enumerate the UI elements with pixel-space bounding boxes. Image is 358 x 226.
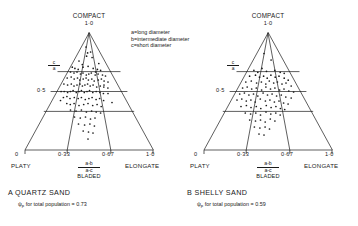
scatter-points-a	[60, 46, 113, 140]
apex-value-a: 1·0	[69, 21, 109, 27]
base-tick-0-b: 0	[194, 152, 197, 158]
panel-subcaption-a: ψp for total population = 0.73	[18, 201, 87, 208]
psi-text-a: for total population = 0.73	[24, 201, 87, 207]
corner-label-platy-a: PLATY	[11, 163, 31, 169]
legend-item-c: c=short diameter	[131, 42, 189, 49]
base-tick-033-a: 0·33	[58, 152, 70, 158]
left-axis-tick-05-a: 0·5	[37, 88, 46, 94]
apex-label-compact-b: COMPACT	[238, 13, 298, 19]
legend-item-a: a=long diameter	[131, 29, 189, 36]
base-axis-name-bladed-a: BLADED	[69, 174, 109, 180]
corner-label-elongate-b: ELONGATE	[304, 163, 338, 169]
base-axis-fraction-a: a-b a-c	[78, 161, 100, 173]
legend-block: a=long diameter b=intermediate diameter …	[131, 29, 189, 49]
base-tick-10-b: 1·0	[325, 152, 334, 158]
figure-root: COMPACT 1·0 0 0·33 0·67 1·0 PLATY ELONGA…	[0, 0, 358, 226]
apex-label-compact-a: COMPACT	[59, 13, 119, 19]
psi-text-b: for total population = 0.59	[203, 201, 266, 207]
left-axis-fraction-ca-b: c a	[227, 60, 239, 71]
left-axis-fraction-ca-a: c a	[48, 60, 60, 71]
legend-item-b: b=intermediate diameter	[131, 36, 189, 43]
panel-subcaption-b: ψp for total population = 0.59	[197, 201, 266, 208]
base-axis-fraction-b: a-b a-c	[257, 161, 279, 173]
corner-label-elongate-a: ELONGATE	[125, 163, 159, 169]
panel-caption-a: A QUARTZ SAND	[8, 188, 70, 197]
base-tick-067-b: 0·67	[281, 152, 293, 158]
base-tick-0-a: 0	[15, 152, 18, 158]
base-axis-name-bladed-b: BLADED	[248, 174, 288, 180]
base-tick-033-b: 0·33	[237, 152, 249, 158]
panel-shelly-sand: COMPACT 1·0 0 0·33 0·67 1·0 PLATY ELONGA…	[179, 0, 358, 226]
apex-value-b: 1·0	[248, 21, 288, 27]
left-axis-denominator-a: a	[48, 65, 60, 71]
base-tick-067-a: 0·67	[102, 152, 114, 158]
base-tick-10-a: 1·0	[146, 152, 155, 158]
left-axis-denominator-b: a	[227, 65, 239, 71]
panel-caption-b: B SHELLY SAND	[187, 188, 247, 197]
left-axis-tick-05-b: 0·5	[216, 88, 225, 94]
corner-label-platy-b: PLATY	[190, 163, 210, 169]
